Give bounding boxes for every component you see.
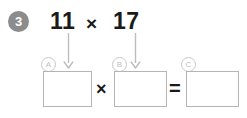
part-label-b: B (112, 57, 127, 72)
part-label-c: C (181, 57, 196, 72)
worksheet-problem: 3 11 × 17 A B C × = (0, 0, 247, 118)
part-label-a: A (41, 57, 56, 72)
answer-row-multiply-symbol: × (96, 80, 107, 98)
question-number-badge: 3 (8, 11, 29, 32)
expression-right-operand: 17 (113, 8, 140, 34)
arrow-down-icon (130, 33, 141, 69)
expression-multiply-symbol: × (86, 11, 98, 37)
arrow-down-icon (63, 33, 74, 69)
answer-box-a[interactable] (43, 71, 92, 107)
answer-box-c[interactable] (186, 71, 239, 107)
expression-left-operand: 11 (50, 8, 75, 34)
answer-row-equals-symbol: = (169, 78, 181, 98)
answer-box-b[interactable] (114, 71, 167, 107)
